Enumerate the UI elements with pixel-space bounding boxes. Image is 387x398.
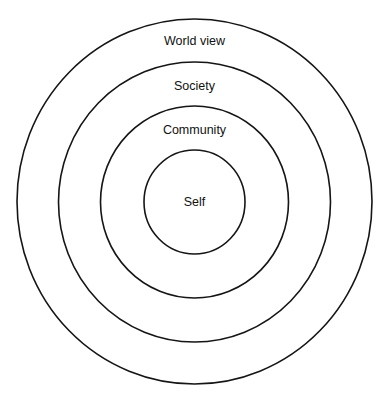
label-world-view: World view (164, 34, 226, 48)
label-community: Community (163, 123, 227, 137)
label-self: Self (184, 195, 206, 209)
label-society: Society (174, 79, 216, 93)
concentric-diagram: World view Society Community Self (0, 0, 387, 398)
